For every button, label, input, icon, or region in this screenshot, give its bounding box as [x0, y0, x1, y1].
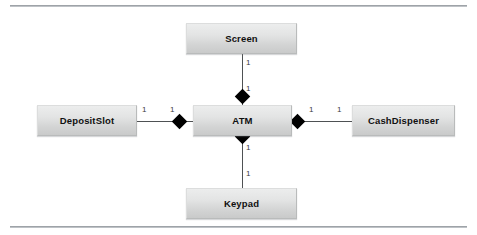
class-name-atm: ATM [232, 115, 252, 126]
multiplicity-screen-near-screen: 1 [246, 59, 250, 67]
class-name-depositslot: DepositSlot [60, 115, 114, 126]
multiplicity-keypad-near-atm: 1 [246, 144, 250, 152]
composition-diamond-atm-depositslot [172, 113, 188, 129]
composition-diamond-atm-cashdispenser [290, 113, 306, 129]
multiplicity-cashdispenser-near-atm: 1 [309, 106, 313, 114]
class-name-keypad: Keypad [224, 198, 259, 209]
class-name-screen: Screen [225, 33, 258, 44]
class-box-atm[interactable]: ATM [193, 105, 292, 136]
frame-top-rule [10, 5, 467, 7]
multiplicity-depositslot-near-depositslot: 1 [142, 106, 146, 114]
multiplicity-screen-near-atm: 1 [246, 85, 250, 93]
uml-class-diagram: 1 1 1 1 1 1 1 1 Screen DepositSlot ATM C… [0, 0, 477, 235]
class-box-cashdispenser[interactable]: CashDispenser [352, 105, 455, 136]
multiplicity-keypad-near-keypad: 1 [246, 170, 250, 178]
class-box-keypad[interactable]: Keypad [186, 188, 297, 219]
multiplicity-cashdispenser-near-cashdispenser: 1 [337, 106, 341, 114]
class-box-depositslot[interactable]: DepositSlot [37, 105, 137, 136]
frame-bottom-rule [10, 226, 467, 228]
multiplicity-depositslot-near-atm: 1 [170, 106, 174, 114]
class-box-screen[interactable]: Screen [186, 23, 297, 54]
class-name-cashdispenser: CashDispenser [368, 115, 439, 126]
